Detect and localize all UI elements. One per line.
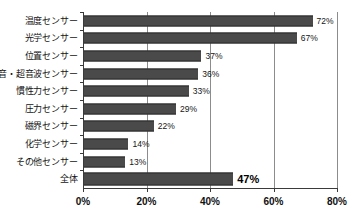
y-axis-tick	[80, 30, 83, 31]
x-axis-tick	[337, 188, 338, 192]
x-axis-tick	[147, 188, 148, 192]
y-axis-tick	[80, 47, 83, 48]
category-label: 位置センサー	[25, 51, 78, 60]
y-axis-tick	[80, 65, 83, 66]
y-axis-tick	[80, 153, 83, 154]
value-label: 22%	[158, 122, 175, 131]
category-label: 光学センサー	[25, 34, 78, 43]
bar-row: 圧力センサー29%	[83, 100, 337, 118]
category-label: 圧力センサー	[25, 104, 78, 113]
y-axis-tick	[80, 82, 83, 83]
category-label: 磁界センサー	[25, 122, 78, 131]
value-label: 29%	[180, 105, 197, 114]
bar-row: 磁界センサー22%	[83, 118, 337, 136]
x-axis-tick	[83, 188, 84, 192]
bar-row: 慣性力センサー33%	[83, 82, 337, 100]
bar-row: 音・超音波センサー36%	[83, 65, 337, 83]
x-axis-tick	[274, 188, 275, 192]
x-axis-label: 20%	[136, 196, 156, 207]
x-axis-label: 80%	[327, 196, 347, 207]
bar	[84, 86, 189, 97]
bar	[84, 173, 233, 186]
category-label: 化学センサー	[25, 139, 78, 148]
x-axis-label: 60%	[263, 196, 283, 207]
bar-row: 位置センサー37%	[83, 47, 337, 65]
bar-row: その他センサー13%	[83, 153, 337, 171]
category-label: 全体	[60, 175, 78, 184]
bar-chart: 温度センサー72%光学センサー67%位置センサー37%音・超音波センサー36%慣…	[0, 0, 354, 220]
y-axis-tick	[80, 170, 83, 171]
value-label: 47%	[237, 174, 259, 185]
category-label: 音・超音波センサー	[0, 69, 78, 78]
bar	[84, 50, 201, 61]
bar	[84, 156, 125, 167]
value-label: 14%	[132, 140, 149, 149]
category-label: 慣性力センサー	[16, 87, 78, 96]
value-label: 36%	[202, 69, 219, 78]
value-label: 13%	[129, 157, 146, 166]
bar	[84, 121, 154, 132]
y-axis-tick	[80, 100, 83, 101]
category-label: 温度センサー	[25, 16, 78, 25]
y-axis-tick	[80, 12, 83, 13]
value-label: 33%	[193, 87, 210, 96]
bar	[84, 138, 128, 149]
value-label: 67%	[301, 34, 318, 43]
x-axis-label: 40%	[200, 196, 220, 207]
value-label: 72%	[317, 17, 334, 26]
bar	[84, 68, 198, 79]
bar-row: 全体47%	[83, 170, 337, 188]
bar	[84, 103, 176, 114]
category-label: その他センサー	[16, 157, 78, 166]
bar	[84, 15, 313, 26]
bar-row: 光学センサー67%	[83, 30, 337, 48]
plot-area: 温度センサー72%光学センサー67%位置センサー37%音・超音波センサー36%慣…	[83, 12, 337, 188]
y-axis-tick	[80, 118, 83, 119]
bar	[84, 33, 297, 44]
bar-row: 化学センサー14%	[83, 135, 337, 153]
bar-row: 温度センサー72%	[83, 12, 337, 30]
y-axis-tick	[80, 135, 83, 136]
x-axis-label: 0%	[76, 196, 90, 207]
gridline-80%	[337, 12, 338, 188]
x-axis-tick	[210, 188, 211, 192]
value-label: 37%	[205, 52, 222, 61]
